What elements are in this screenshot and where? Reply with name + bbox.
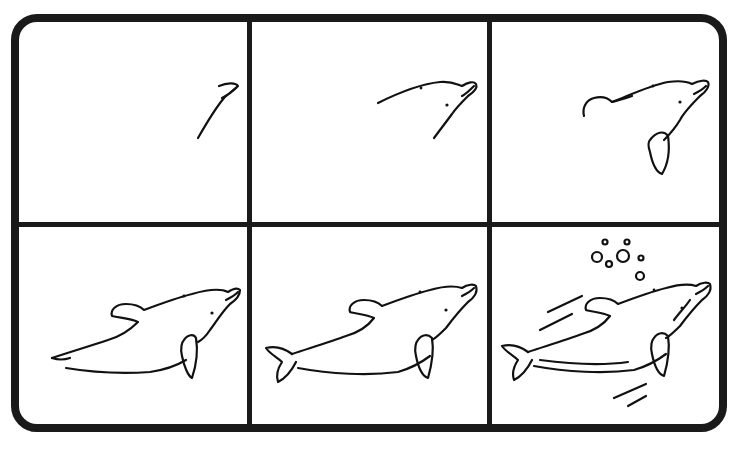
panel-4-drawing [52, 289, 240, 378]
dolphin-drawing-steps [0, 0, 744, 450]
panel-6-drawing [502, 240, 711, 407]
panel-2-drawing [378, 82, 477, 138]
panel-3-drawing [583, 81, 708, 174]
panel-5-drawing [266, 285, 477, 382]
panel-1-drawing [198, 83, 238, 138]
